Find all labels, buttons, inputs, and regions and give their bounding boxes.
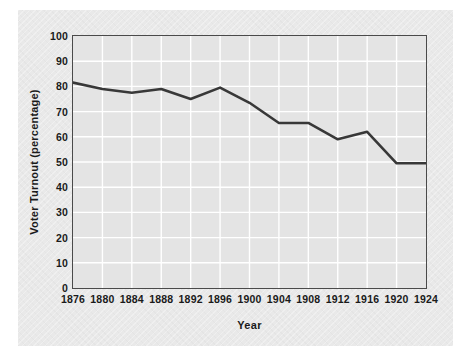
x-axis-title: Year [72,319,427,331]
x-tick-label: 1888 [149,293,173,305]
x-tick-label: 1924 [414,293,438,305]
x-tick-label: 1916 [355,293,379,305]
x-tick-label: 1908 [296,293,320,305]
x-tick-label: 1904 [267,293,291,305]
x-tick-label: 1876 [61,293,85,305]
x-tick-label: 1920 [384,293,408,305]
y-tick-label: 30 [56,206,68,218]
x-axis-title-text: Year [237,319,261,331]
y-tick-label: 20 [56,232,68,244]
x-tick-label: 1900 [237,293,261,305]
y-tick-label: 90 [56,55,68,67]
data-line-0 [73,83,426,164]
series-line-voter-turnout [73,36,426,288]
x-tick-label: 1884 [120,293,144,305]
y-axis-title-text: Voter Turnout (percentage) [28,89,40,234]
y-tick-label: 60 [56,131,68,143]
y-tick-label: 70 [56,106,68,118]
x-tick-label: 1912 [326,293,350,305]
chart-figure: Voter Turnout (percentage) 0102030405060… [18,10,453,346]
x-tick-label: 1892 [179,293,203,305]
x-tick-label: 1896 [208,293,232,305]
y-tick-label: 40 [56,181,68,193]
y-tick-label: 10 [56,257,68,269]
x-tick-label: 1880 [90,293,114,305]
plot-area: 0102030405060708090100 18761880188418881… [72,35,427,289]
y-tick-label: 100 [50,30,68,42]
plot-inner [73,36,426,288]
y-axis-title: Voter Turnout (percentage) [26,35,42,289]
y-tick-label: 50 [56,156,68,168]
y-tick-label: 80 [56,80,68,92]
